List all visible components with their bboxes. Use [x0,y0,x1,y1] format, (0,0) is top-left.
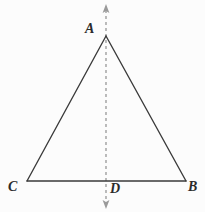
axis-arrow-down-icon [103,200,110,209]
geometry-figure: A B C D [0,0,205,212]
vertex-label-c: C [8,180,17,194]
triangle-side-ab [106,36,186,181]
triangle-side-ac [27,36,106,181]
vertex-label-d: D [110,182,120,196]
vertex-label-b: B [188,180,197,194]
triangle-diagram-svg [0,0,205,212]
vertex-label-a: A [85,22,94,36]
